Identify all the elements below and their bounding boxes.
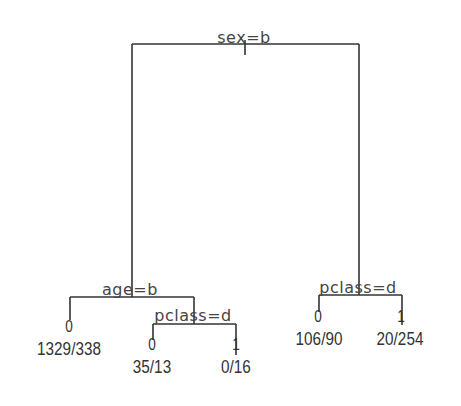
leaf-counts-label: 106/90	[296, 330, 343, 348]
leaf-class-label: 1	[232, 336, 240, 353]
leaf-counts-label: 20/254	[377, 330, 424, 348]
leaf-class-label: 0	[148, 336, 156, 353]
leaf-class-label: 0	[314, 308, 322, 325]
root-split-label: sex=b	[217, 30, 270, 46]
decision-tree: sex=b age=b 0 1329/338 pclass=d 0 35/13 …	[0, 0, 461, 406]
left-pclass-split-label: pclass=d	[154, 308, 231, 324]
right-pclass-split-label: pclass=d	[319, 280, 396, 296]
leaf-counts-label: 1329/338	[37, 340, 101, 358]
leaf-counts-label: 0/16	[221, 358, 251, 376]
age-split-label: age=b	[102, 282, 158, 298]
leaf-class-label: 1	[397, 308, 405, 325]
leaf-counts-label: 35/13	[133, 358, 171, 376]
leaf-class-label: 0	[65, 318, 73, 335]
